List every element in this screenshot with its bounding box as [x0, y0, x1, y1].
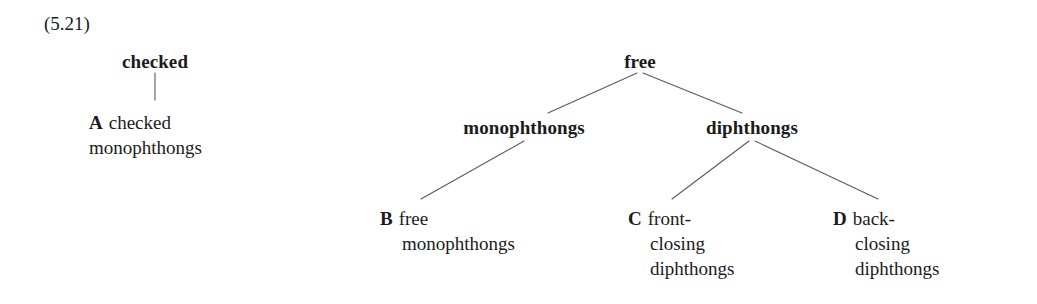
- node-monophthongs: monophthongs: [463, 118, 585, 137]
- leaf-d-line-3: diphthongs: [833, 256, 939, 281]
- leaf-c-line-3: diphthongs: [628, 256, 734, 281]
- leaf-b-line-1: Bfree: [380, 206, 515, 231]
- leaf-c-line-2: closing: [628, 231, 734, 256]
- leaf-b-marker: B: [380, 208, 393, 229]
- edge-monophthongs-to-b: [421, 141, 524, 199]
- leaf-c-line-1: Cfront-: [628, 206, 734, 231]
- leaf-d: Dback- closing diphthongs: [833, 206, 939, 281]
- leaf-d-text-1: back-: [853, 208, 895, 229]
- leaf-b-line-2: monophthongs: [380, 231, 515, 256]
- leaf-a-line-2: monophthongs: [89, 135, 202, 160]
- edge-diphthongs-to-c: [672, 141, 749, 199]
- figure-canvas: (5.21) checked Achecked monophthongs fre…: [0, 0, 1037, 304]
- leaf-c-text-1: front-: [648, 208, 691, 229]
- leaf-a-marker: A: [89, 112, 103, 133]
- leaf-c-marker: C: [628, 208, 642, 229]
- leaf-b: Bfree monophthongs: [380, 206, 515, 256]
- leaf-d-marker: D: [833, 208, 847, 229]
- node-free: free: [624, 52, 656, 71]
- leaf-a-text-1: checked: [109, 112, 171, 133]
- leaf-c: Cfront- closing diphthongs: [628, 206, 734, 281]
- leaf-d-line-2: closing: [833, 231, 939, 256]
- leaf-b-text-1: free: [399, 208, 429, 229]
- leaf-d-line-1: Dback-: [833, 206, 939, 231]
- leaf-a: Achecked monophthongs: [89, 110, 202, 160]
- node-checked: checked: [122, 52, 188, 71]
- leaf-a-line-1: Achecked: [89, 110, 202, 135]
- node-diphthongs: diphthongs: [706, 118, 798, 137]
- figure-number: (5.21): [44, 14, 90, 33]
- edge-free-to-diphthongs: [643, 73, 742, 113]
- edge-diphthongs-to-d: [755, 141, 878, 199]
- edge-free-to-monophthongs: [548, 73, 637, 113]
